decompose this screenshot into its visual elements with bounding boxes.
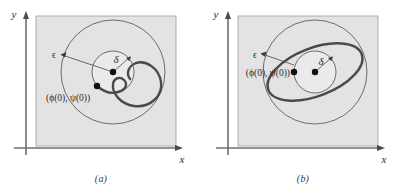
y-axis-arrowhead-a: [23, 11, 29, 19]
initial-condition-label-a: (ϕ(0), ψ(0)): [46, 93, 90, 104]
panel-a-caption: (a): [0, 173, 202, 184]
x-axis-arrowhead-b: [377, 145, 385, 151]
equilibrium-point-b: [312, 69, 318, 75]
panel-b: y x ϵ δ (ϕ(0), ψ(0)) (b): [202, 0, 404, 188]
delta-label-a: δ: [113, 53, 119, 65]
delta-label-b: δ: [318, 55, 324, 67]
initial-point-a: [94, 83, 100, 89]
y-axis-arrowhead-b: [225, 11, 231, 19]
y-axis-label-a: y: [11, 8, 17, 20]
panel-a: y x ϵ δ (ϕ(0), ψ(0)) (a): [0, 0, 202, 188]
y-axis-label-b: y: [213, 8, 219, 20]
epsilon-label-a: ϵ: [52, 50, 56, 60]
x-axis-arrowhead-a: [175, 145, 183, 151]
initial-condition-label-b: (ϕ(0), ψ(0)): [246, 68, 290, 79]
panel-b-caption: (b): [202, 173, 404, 184]
equilibrium-point-a: [110, 69, 116, 75]
epsilon-label-b: ϵ: [253, 50, 257, 60]
initial-point-b: [291, 69, 297, 75]
panel-a-svg: y x ϵ δ (ϕ(0), ψ(0)): [0, 0, 202, 188]
x-axis-label-a: x: [179, 153, 185, 165]
x-axis-label-b: x: [381, 153, 387, 165]
figure-container: y x ϵ δ (ϕ(0), ψ(0)) (a): [0, 0, 404, 188]
panel-b-svg: y x ϵ δ (ϕ(0), ψ(0)): [202, 0, 404, 188]
